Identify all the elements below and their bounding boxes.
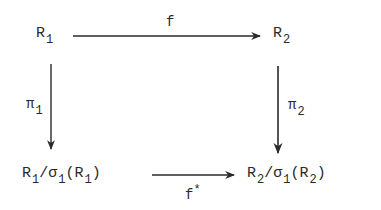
node-r2: R2 [273,26,290,46]
label-pi1: π1 [26,97,43,117]
node-r1: R1 [36,26,53,46]
node-r2-quotient: R2/σ1(R2) [247,166,326,186]
label-f: f [166,15,174,29]
label-pi2-text: π [288,97,296,113]
q2-paren-r: (R [290,165,308,182]
label-pi2-sub: 2 [297,105,304,119]
label-fstar: f* [185,184,201,202]
node-r2-base: R [273,25,282,42]
node-r1-base: R [36,25,45,42]
q1-sigma: /σ [39,165,57,182]
q2-sigma: /σ [264,165,282,182]
node-r1-quotient: R1/σ1(R1) [22,166,101,186]
q2-paren-r-sub: 2 [309,173,316,187]
label-f-text: f [166,14,174,30]
node-r2-sub: 2 [283,33,290,47]
label-pi1-text: π [26,96,34,112]
label-fstar-sup: * [193,183,200,197]
q1-r: R [22,165,31,182]
label-pi2: π2 [288,98,305,118]
q1-close: ) [92,165,101,182]
q1-paren-r-sub: 1 [84,173,91,187]
label-pi1-sub: 1 [35,104,42,118]
node-r1-sub: 1 [46,33,53,47]
q1-paren-r: (R [65,165,83,182]
q2-r: R [247,165,256,182]
q2-close: ) [317,165,326,182]
